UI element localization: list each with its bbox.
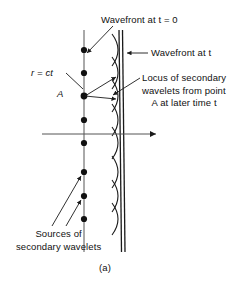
- label-wavefront-at-t0: Wavefront at t = 0: [101, 14, 178, 27]
- later-wavefront-line: [119, 30, 125, 252]
- source-point: [81, 169, 87, 175]
- label-locus-line1: Locus of secondary: [142, 72, 226, 83]
- leader-wavefront-t0: [87, 26, 113, 53]
- label-panel-caption: (a): [99, 262, 111, 275]
- leader-r-ct: [66, 73, 83, 89]
- label-locus-line3: A at later time t: [142, 97, 226, 110]
- label-point-a: A: [57, 88, 63, 101]
- label-sources-line2: secondary wavelets: [16, 241, 101, 252]
- source-point: [81, 70, 87, 76]
- source-point: [81, 216, 87, 222]
- source-point: [81, 140, 87, 146]
- label-locus-block: Locus of secondary wavelets from point A…: [142, 72, 226, 110]
- source-point: [81, 47, 87, 53]
- source-point: [81, 193, 87, 199]
- label-sources-line1: Sources of: [35, 228, 81, 239]
- radius-vector-r-ct: [85, 77, 116, 99]
- label-radius-r-equals-ct: r = ct: [31, 67, 53, 80]
- source-point: [81, 117, 87, 123]
- label-sources-block: Sources of secondary wavelets: [16, 228, 101, 253]
- label-locus-line2: wavelets from point: [142, 85, 226, 96]
- label-wavefront-at-t: Wavefront at t: [151, 47, 211, 60]
- leader-sources: [52, 176, 81, 226]
- huygens-principle-figure: Wavefront at t = 0 Wavefront at t Locus …: [0, 0, 252, 283]
